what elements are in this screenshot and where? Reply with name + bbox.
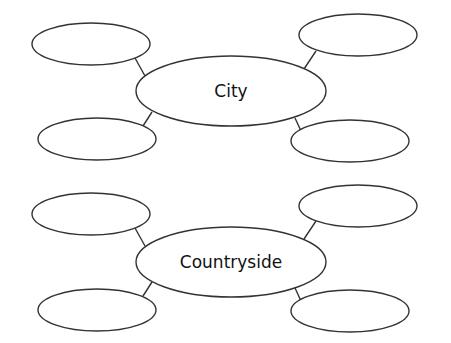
empty-bubble-top-left[interactable] (32, 23, 150, 65)
connector-line (135, 228, 145, 246)
empty-bubble-bottom-right[interactable] (291, 120, 409, 162)
connector-line (304, 51, 316, 69)
center-label-countryside: Countryside (180, 252, 282, 272)
mind-map-canvas: City Countryside (0, 0, 451, 343)
connector-line (304, 221, 316, 239)
empty-bubble-bottom-left[interactable] (38, 289, 156, 331)
connector-line (143, 112, 152, 126)
center-label-city: City (214, 81, 247, 101)
empty-bubble-top-right[interactable] (299, 14, 417, 56)
empty-bubble-bottom-left[interactable] (38, 118, 156, 160)
empty-bubble-top-right[interactable] (299, 185, 417, 227)
connector-line (143, 282, 152, 296)
connector-line (135, 58, 145, 76)
empty-bubble-top-left[interactable] (32, 193, 150, 235)
empty-bubble-bottom-right[interactable] (291, 290, 409, 332)
